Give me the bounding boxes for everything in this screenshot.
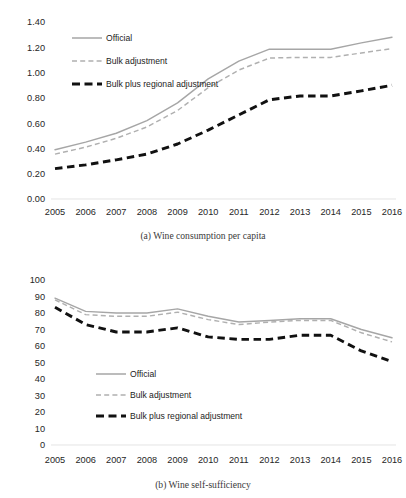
y-axis-tick-label: 60 [35, 341, 45, 351]
panel-caption: (b) Wine self-sufficiency [155, 479, 251, 491]
x-axis-tick-label: 2006 [75, 207, 95, 217]
x-axis-tick-label: 2015 [351, 455, 371, 465]
y-axis-tick-label: 90 [35, 292, 45, 302]
series-line-bulk-plus-regional [55, 85, 392, 168]
y-axis-tick-label: 20 [35, 407, 45, 417]
x-axis-tick-label: 2014 [321, 207, 341, 217]
series-line-bulk-adjustment [55, 300, 392, 342]
wine-self-sufficiency-chart: 0102030405060708090100200520062007200820… [0, 250, 406, 498]
x-axis-tick-label: 2013 [290, 207, 310, 217]
legend-item: Official [96, 369, 156, 379]
y-axis-tick-label: 0.40 [27, 144, 45, 154]
y-axis-tick-label: 80 [35, 308, 45, 318]
y-axis-tick-label: 1.00 [27, 68, 45, 78]
x-axis-tick-label: 2010 [198, 207, 218, 217]
legend-item: Bulk adjustment [96, 390, 192, 400]
wine-consumption-chart: 0.000.200.400.600.801.001.201.4020052006… [0, 0, 406, 250]
figure-page: 0.000.200.400.600.801.001.201.4020052006… [0, 0, 406, 498]
x-axis-tick-label: 2008 [137, 455, 157, 465]
y-axis-tick-label: 1.40 [27, 17, 45, 27]
chart-panel-b: 0102030405060708090100200520062007200820… [0, 250, 406, 498]
y-axis-tick-label: 70 [35, 325, 45, 335]
x-axis-tick-label: 2015 [351, 207, 371, 217]
legend-label: Official [106, 33, 132, 43]
y-axis-tick-label: 40 [35, 374, 45, 384]
legend-item: Bulk adjustment [72, 56, 168, 66]
y-axis-tick-label: 0.60 [27, 119, 45, 129]
x-axis-tick-label: 2014 [321, 455, 341, 465]
legend-item: Bulk plus regional adjustment [96, 411, 243, 421]
y-axis-tick-label: 1.20 [27, 43, 45, 53]
x-axis-tick-label: 2016 [382, 207, 402, 217]
legend-label: Official [130, 369, 156, 379]
y-axis-tick-label: 10 [35, 424, 45, 434]
legend-item: Bulk plus regional adjustment [72, 79, 219, 89]
x-axis-tick-label: 2009 [167, 207, 187, 217]
x-axis-tick-label: 2009 [167, 455, 187, 465]
x-axis-tick-label: 2010 [198, 455, 218, 465]
series-line-official [55, 298, 392, 338]
x-axis-tick-label: 2011 [229, 207, 249, 217]
x-axis-tick-label: 2006 [75, 455, 95, 465]
x-axis-tick-label: 2011 [229, 455, 249, 465]
y-axis-tick-label: 0.80 [27, 93, 45, 103]
y-axis-tick-label: 0 [40, 440, 45, 450]
x-axis-tick-label: 2005 [45, 455, 65, 465]
y-axis-tick-label: 50 [35, 358, 45, 368]
panel-caption: (a) Wine consumption per capita [140, 230, 266, 242]
x-axis-tick-label: 2013 [290, 455, 310, 465]
legend-label: Bulk adjustment [106, 56, 168, 66]
legend-item: Official [72, 33, 132, 43]
x-axis-tick-label: 2012 [259, 455, 279, 465]
x-axis-tick-label: 2008 [137, 207, 157, 217]
legend-label: Bulk adjustment [130, 390, 192, 400]
x-axis-tick-label: 2016 [382, 455, 402, 465]
y-axis-tick-label: 0.20 [27, 169, 45, 179]
x-axis-tick-label: 2012 [259, 207, 279, 217]
y-axis-tick-label: 100 [30, 275, 45, 285]
series-line-official [55, 37, 392, 150]
x-axis-tick-label: 2007 [106, 207, 126, 217]
chart-panel-a: 0.000.200.400.600.801.001.201.4020052006… [0, 0, 406, 250]
legend-label: Bulk plus regional adjustment [106, 79, 219, 89]
legend-label: Bulk plus regional adjustment [130, 411, 243, 421]
y-axis-tick-label: 30 [35, 391, 45, 401]
y-axis-tick-label: 0.00 [27, 194, 45, 204]
x-axis-tick-label: 2005 [45, 207, 65, 217]
x-axis-tick-label: 2007 [106, 455, 126, 465]
